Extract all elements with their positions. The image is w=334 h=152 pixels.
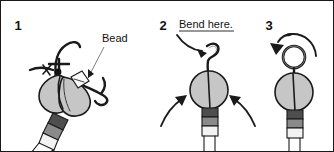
panel-1-bead-label: Bead <box>102 32 128 44</box>
panel-1-step-number: 1 <box>14 18 21 33</box>
panel-1-bead-leader-arrowhead <box>88 69 94 78</box>
panel-3-closed-loop <box>283 46 305 68</box>
panel-3-step-number: 3 <box>265 18 272 33</box>
panel-2-bend-arrow-line <box>177 35 202 51</box>
panel-3-rotation-arrowhead <box>270 43 284 55</box>
panel-2-striped-handle <box>202 108 218 151</box>
panel-1: 1 <box>14 18 127 152</box>
panel-3: 3 <box>265 18 316 152</box>
panel-1-knot-dot <box>55 69 62 76</box>
panel-3-striped-handle <box>287 110 303 152</box>
panel-2-left-arrowhead <box>175 95 187 106</box>
panel-2: 2 Bend here. <box>159 18 255 151</box>
panel-2-right-arrow-line <box>234 99 255 126</box>
instruction-illustration: 1 <box>1 1 334 152</box>
panel-2-step-number: 2 <box>159 18 166 33</box>
panel-2-left-arrow-line <box>161 99 182 126</box>
panel-1-striped-handle <box>31 113 68 152</box>
panel-2-right-arrowhead <box>229 95 241 106</box>
panel-2-bend-here-label: Bend here. <box>179 18 233 30</box>
instruction-figure: 1 <box>0 0 334 152</box>
